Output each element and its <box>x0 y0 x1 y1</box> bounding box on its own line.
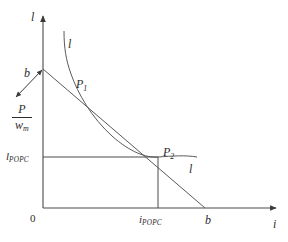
diagram-svg <box>0 0 288 242</box>
point-p1-subscript: 1 <box>83 84 87 93</box>
point-p1-label: P1 <box>76 78 88 90</box>
ratio-denominator-subscript: m <box>23 124 29 133</box>
point-p2-subscript: 2 <box>170 152 174 161</box>
y-axis-label: l <box>31 11 34 23</box>
ratio-numerator: P <box>12 103 32 116</box>
ratio-p-over-wm: P wm <box>12 103 32 131</box>
i-popc-label: iPOPC <box>139 214 162 225</box>
figure-canvas: l i 0 b b P1 P2 l l lPOPC iPOPC P wm <box>0 0 288 242</box>
curve-label-top: l <box>68 38 71 50</box>
ratio-denominator: wm <box>12 119 32 132</box>
point-p2-label: P2 <box>163 146 175 158</box>
i-popc-subscript: POPC <box>142 219 162 227</box>
origin-label: 0 <box>30 213 36 224</box>
curve-label-end: l <box>189 163 192 175</box>
x-axis-label: i <box>273 218 276 230</box>
l-popc-subscript: POPC <box>9 156 29 164</box>
b-label-x-intercept: b <box>205 214 211 226</box>
ratio-denominator-base: w <box>15 118 23 132</box>
indifference-curve <box>64 31 197 157</box>
b-label-y-intercept: b <box>24 67 30 79</box>
budget-line <box>43 69 205 208</box>
l-popc-label: lPOPC <box>6 151 29 162</box>
